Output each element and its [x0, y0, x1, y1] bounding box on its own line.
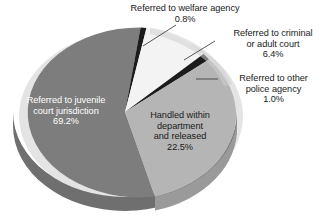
pie-chart: Referred to welfare agency 0.8% Referred… — [0, 0, 328, 217]
slice-label-handled-within-department: Handled within department and released 2… — [128, 110, 232, 152]
slice-label-welfare-agency: Referred to welfare agency 0.8% — [105, 3, 265, 24]
slice-label-criminal-or-adult-court: Referred to criminal or adult court 6.4% — [219, 28, 327, 60]
slice-label-other-police-agency: Referred to other police agency 1.0% — [221, 73, 326, 105]
slice-label-juvenile-court-jurisdiction: Referred to juvenile court jurisdiction … — [8, 95, 124, 127]
